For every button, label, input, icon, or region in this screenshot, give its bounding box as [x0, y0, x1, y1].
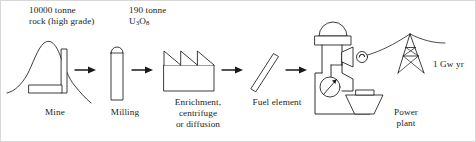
output-label-energy: 1 Gw yr	[433, 59, 476, 70]
stage-label-enrichment: Enrichment,centrifugeor diffusion	[156, 97, 240, 131]
stage-label-mine: Mine	[31, 107, 79, 118]
nuclear-power-plant-icon	[315, 22, 383, 114]
formula-sub-8: 8	[146, 19, 150, 26]
stage-label-fuel-element: Fuel element	[241, 97, 313, 108]
stage-label-power-plant-line1: Power	[394, 107, 418, 117]
flow-arrow-4	[286, 66, 307, 73]
flow-arrow-2	[132, 66, 153, 73]
mountain-mine-shaft-icon	[7, 41, 91, 103]
stage-label-power-plant-line2: plant	[397, 118, 416, 128]
nuclear-fuel-cycle-figure: 10000 tonnerock (high grade) 190 tonneU3…	[0, 0, 476, 142]
mill-tube-icon	[111, 47, 123, 100]
input-ore-line2: rock (high grade)	[29, 16, 94, 26]
flow-arrow-1	[75, 66, 96, 73]
input-caption-ore: 10000 tonnerock (high grade)	[29, 5, 125, 27]
input-caption-yellowcake: 190 tonneU3O8	[129, 5, 199, 29]
input-yellowcake-formula: U3O8	[129, 16, 150, 26]
sawtooth-factory-icon	[164, 51, 214, 91]
stage-label-enrichment-line3: or diffusion	[176, 119, 220, 129]
fuel-rod-icon	[251, 54, 279, 92]
flow-arrow-3	[222, 66, 243, 73]
formula-o: O	[139, 16, 146, 26]
stage-label-milling: Milling	[97, 107, 153, 118]
formula-u: U	[129, 16, 136, 26]
stage-label-enrichment-line1: Enrichment,	[175, 97, 221, 107]
stage-label-enrichment-line2: centrifuge	[179, 108, 217, 118]
input-ore-line1: 10000 tonne	[29, 5, 76, 15]
stage-label-power-plant: Powerplant	[381, 107, 431, 129]
input-yellowcake-line1: 190 tonne	[129, 5, 166, 15]
